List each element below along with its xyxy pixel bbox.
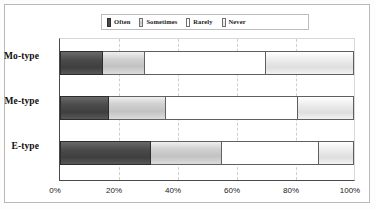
legend-label-never: Never (229, 19, 246, 26)
bar-segment-rarely (145, 51, 266, 75)
bar-segment-rarely (222, 141, 319, 165)
chart-frame: Often Sometimes Rarely Never Mo-type Me-… (4, 4, 370, 203)
category-label-e-type: E-type (0, 141, 39, 151)
legend-item-never: Never (222, 18, 246, 27)
never-swatch-icon (222, 18, 226, 27)
legend-label-sometimes: Sometimes (146, 19, 177, 26)
bar-segment-often (60, 51, 103, 75)
legend-item-often: Often (107, 18, 130, 27)
chart-legend: Often Sometimes Rarely Never (101, 14, 309, 30)
bar-segment-often (60, 96, 109, 120)
rarely-swatch-icon (186, 18, 190, 27)
bar-segment-never (266, 51, 354, 75)
xtick-label-100: 100% (340, 186, 360, 195)
chart-root: Often Sometimes Rarely Never Mo-type Me-… (0, 0, 376, 210)
xtick-label-80: 80% (283, 186, 299, 195)
bar-segment-sometimes (151, 141, 222, 165)
often-swatch-icon (107, 18, 111, 27)
xtick-label-0: 0% (49, 186, 61, 195)
category-label-me-type: Me-type (0, 96, 39, 106)
bar-row-me-type (60, 96, 354, 120)
bar-segment-never (319, 141, 354, 165)
legend-item-rarely: Rarely (186, 18, 212, 27)
bar-segment-never (298, 96, 354, 120)
legend-item-sometimes: Sometimes (139, 18, 177, 27)
plot-area (59, 38, 355, 181)
bar-segment-rarely (166, 96, 298, 120)
xtick-label-20: 20% (106, 186, 122, 195)
legend-label-often: Often (114, 19, 130, 26)
xtick-label-40: 40% (165, 186, 181, 195)
xtick-label-60: 60% (224, 186, 240, 195)
bar-segment-sometimes (103, 51, 146, 75)
bar-row-e-type (60, 141, 354, 165)
bar-segment-often (60, 141, 151, 165)
category-label-mo-type: Mo-type (0, 51, 39, 61)
bar-row-mo-type (60, 51, 354, 75)
legend-label-rarely: Rarely (193, 19, 212, 26)
sometimes-swatch-icon (139, 18, 143, 27)
bar-segment-sometimes (109, 96, 166, 120)
